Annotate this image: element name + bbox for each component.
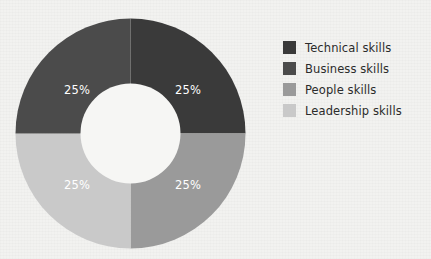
legend-item-people-skills[interactable]: People skills xyxy=(283,79,431,100)
pie-slice-label-leadership-skills: 25% xyxy=(64,178,90,192)
legend-item-technical-skills[interactable]: Technical skills xyxy=(283,37,431,58)
legend-item-leadership-skills[interactable]: Leadership skills xyxy=(283,100,431,121)
legend-item-business-skills[interactable]: Business skills xyxy=(283,58,431,79)
legend-item-label: Technical skills xyxy=(305,41,391,55)
donut-hole xyxy=(81,84,181,184)
donut-chart-svg: 25% 25% 25% 25% xyxy=(15,18,246,249)
legend-swatch-icon xyxy=(283,83,296,96)
legend-swatch-icon xyxy=(283,104,296,117)
chart-legend: Technical skills Business skills People … xyxy=(283,37,431,121)
legend-swatch-icon xyxy=(283,41,296,54)
chart-page: 25% 25% 25% 25% Technical skills Busines… xyxy=(0,0,431,259)
pie-slice-label-business-skills: 25% xyxy=(64,83,90,97)
pie-slice-label-people-skills: 25% xyxy=(175,178,201,192)
legend-item-label: Leadership skills xyxy=(305,104,402,118)
legend-swatch-icon xyxy=(283,62,296,75)
legend-item-label: People skills xyxy=(305,83,376,97)
legend-item-label: Business skills xyxy=(305,62,389,76)
donut-chart: 25% 25% 25% 25% xyxy=(0,0,270,259)
pie-slice-label-technical-skills: 25% xyxy=(175,83,201,97)
